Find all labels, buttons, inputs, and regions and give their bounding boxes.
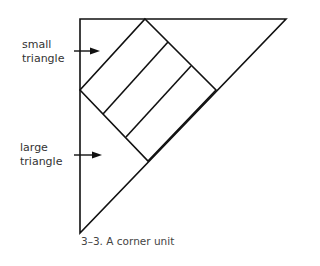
strip-line-1: [103, 42, 168, 114]
label-large-triangle: large triangle: [20, 141, 62, 169]
label-line: triangle: [22, 52, 64, 66]
label-line: small: [22, 38, 64, 52]
outer-triangle: [80, 19, 286, 233]
figure-caption: 3–3. A corner unit: [81, 235, 174, 247]
arrow-small-triangle: [74, 48, 100, 55]
center-square: [80, 19, 216, 161]
label-line: triangle: [20, 155, 62, 169]
label-line: large: [20, 141, 62, 155]
label-small-triangle: small triangle: [22, 38, 64, 66]
arrow-large-triangle: [74, 152, 102, 159]
